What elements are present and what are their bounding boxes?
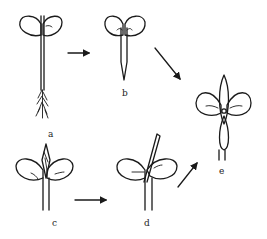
arrow-d-to-e [178,163,197,187]
seedling-diagram: a b c d e [0,0,267,239]
stage-a-seedling [20,16,62,118]
leaf-left [196,93,221,116]
stage-d-seedling [117,134,177,210]
stage-b-seedling [105,16,145,80]
label-b: b [122,88,128,98]
scion [144,134,160,182]
label-a: a [48,129,54,139]
label-d: d [144,218,150,228]
leaf-bottom [220,116,229,150]
label-c: c [52,218,57,228]
cotyledon-left [20,16,41,35]
arrow-b-to-e [155,48,180,79]
roots [36,90,48,118]
stage-e-plant [196,75,251,160]
label-e: e [219,166,224,176]
leaf-right [227,93,251,116]
stage-c-seedling [16,144,73,210]
